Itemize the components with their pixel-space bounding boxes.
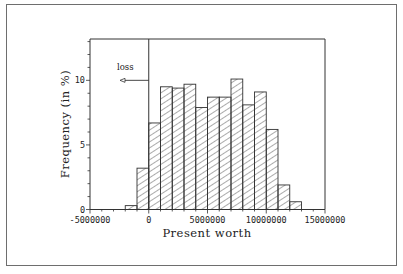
y-tick-label: 10 [75, 75, 85, 85]
histogram-bar [208, 97, 220, 209]
arrow-left-icon [120, 78, 125, 82]
histogram-bar [243, 105, 255, 210]
histogram-bar [137, 168, 149, 209]
histogram-bar [278, 185, 290, 210]
x-tick-label: 0 [146, 215, 151, 225]
loss-annotation: loss [117, 62, 149, 83]
histogram-bar [172, 88, 184, 209]
x-tick-label: -5000000 [70, 215, 111, 225]
histogram-bar [219, 97, 231, 209]
histogram-bars [125, 79, 301, 209]
x-axis-title: Present worth [162, 226, 251, 240]
histogram-chart: 0510-5000000050000001000000015000000 los… [0, 0, 403, 274]
x-tick-label: 15000000 [305, 215, 346, 225]
histogram-bar [255, 92, 267, 210]
loss-label: loss [117, 62, 134, 72]
y-tick-label: 0 [80, 205, 85, 215]
histogram-bar [125, 206, 137, 210]
histogram-bar [231, 79, 243, 209]
y-axis-title: Frequency (in %) [58, 70, 72, 179]
histogram-bar [149, 123, 161, 210]
histogram-bar [290, 202, 302, 210]
histogram-bar [196, 107, 208, 209]
histogram-bar [184, 84, 196, 209]
histogram-bar [266, 129, 278, 209]
histogram-bar [161, 87, 173, 210]
x-tick-label: 10000000 [246, 215, 287, 225]
y-tick-label: 5 [80, 140, 85, 150]
x-tick-label: 5000000 [190, 215, 226, 225]
